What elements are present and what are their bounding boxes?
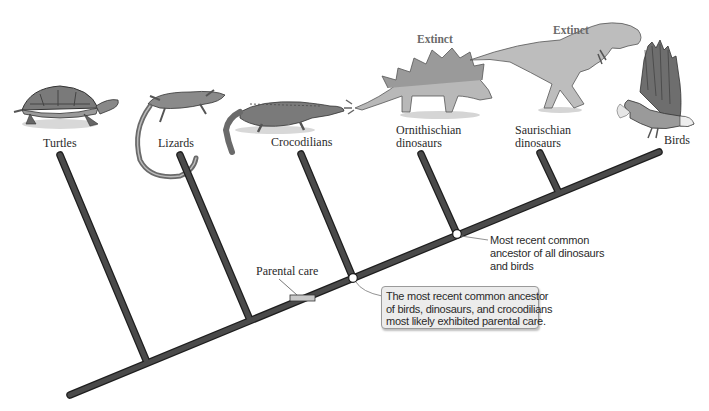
taxon-label-turtles: Turtles xyxy=(43,137,77,150)
branch-ornithischian xyxy=(421,154,457,234)
parental-care-label: Parental care xyxy=(256,264,318,279)
taxon-label-lizards: Lizards xyxy=(158,137,194,150)
parental-care-leader-line xyxy=(279,279,297,295)
tyrannosaurus-illustration xyxy=(470,23,641,113)
dinosaur-ancestor-annotation: Most recent common ancestor of all dinos… xyxy=(490,234,604,273)
cladogram-figure: Extinct Extinct Turtles Lizards Crocodil… xyxy=(0,0,709,411)
tree-branches xyxy=(60,152,659,395)
branch-saurischian xyxy=(540,153,558,191)
archosaur-ancestor-callout: The most recent common ancestor of birds… xyxy=(381,286,539,329)
dinosaur-ancestor-node xyxy=(453,230,462,239)
extinct-label-ornithischian: Extinct xyxy=(417,33,453,45)
dinosaur-ancestor-leader-line xyxy=(461,236,488,240)
branch-turtles xyxy=(60,155,146,360)
taxon-label-ornithischian: Ornithischian dinosaurs xyxy=(396,124,461,150)
tree-graphic xyxy=(0,0,709,411)
branch-crocodilians xyxy=(301,154,353,278)
eagle-illustration xyxy=(617,40,694,138)
branch-lizards xyxy=(180,155,250,320)
archosaur-ancestor-node xyxy=(349,274,358,283)
taxon-label-crocodilians: Crocodilians xyxy=(271,136,332,149)
trunk-line xyxy=(70,152,659,395)
parental-care-trait-bar xyxy=(290,295,315,301)
turtle-illustration xyxy=(14,86,118,129)
taxon-label-saurischian: Saurischian dinosaurs xyxy=(515,124,571,150)
callout-leader-line xyxy=(356,282,382,296)
stegosaurus-illustration xyxy=(344,48,492,119)
extinct-label-saurischian: Extinct xyxy=(553,24,589,36)
taxon-label-birds: Birds xyxy=(664,134,690,147)
